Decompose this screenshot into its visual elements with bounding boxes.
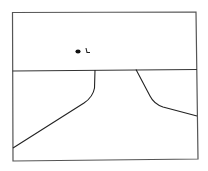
frame-border bbox=[13, 12, 199, 161]
glyph-mark bbox=[86, 48, 90, 53]
left-road-edge bbox=[13, 70, 95, 148]
dot-mark bbox=[75, 50, 80, 54]
right-road-edge bbox=[136, 70, 197, 117]
sketch-canvas bbox=[0, 0, 208, 171]
horizon-line bbox=[13, 70, 198, 72]
